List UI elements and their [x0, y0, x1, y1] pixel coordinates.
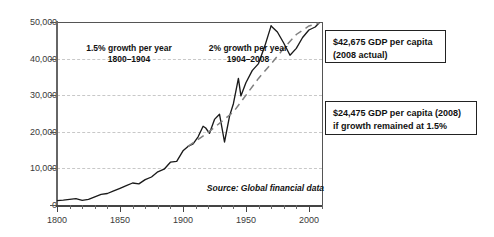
- callout-counterfactual-2008: $24,475 GDP per capita (2008) if growth …: [325, 101, 477, 135]
- x-tick-label-1850: 1850: [98, 215, 142, 225]
- gdp-per-capita-chart: 50,000 40,000 30,000 20,000 10,000 0 1.5…: [0, 0, 494, 237]
- x-tick-minor: [158, 205, 159, 209]
- x-tick-label-2000: 2000: [287, 215, 331, 225]
- source-note: Source: Global financial data: [196, 183, 324, 193]
- x-tick-minor: [233, 205, 234, 209]
- x-tick-label-1950: 1950: [224, 215, 268, 225]
- annotation-growth-1800-1904: 1.5% growth per year 1800–1904: [66, 43, 192, 65]
- x-tick-minor: [70, 205, 71, 209]
- x-tick-minor: [271, 205, 272, 209]
- x-tick-minor: [82, 205, 83, 209]
- callout-actual-2008: $42,675 GDP per capita (2008 actual): [325, 30, 446, 63]
- annotation-growth-1904-2008-line1: 2% growth per year: [190, 43, 306, 54]
- annotation-growth-1800-1904-line1: 1.5% growth per year: [66, 43, 192, 54]
- x-tick-minor: [322, 205, 323, 209]
- x-tick-mark-1800: [57, 205, 58, 212]
- x-tick-label-1900: 1900: [161, 215, 205, 225]
- x-tick-minor: [284, 205, 285, 209]
- series-counterfactual-dashed: [188, 23, 319, 146]
- callout-actual-2008-line2: (2008 actual): [333, 49, 438, 62]
- annotation-growth-1904-2008: 2% growth per year 1904–2008: [190, 43, 306, 65]
- x-tick-mark-1900: [183, 205, 184, 212]
- x-tick-minor: [107, 205, 108, 209]
- x-tick-minor: [221, 205, 222, 209]
- callout-counterfactual-2008-line1: $24,475 GDP per capita (2008): [333, 107, 469, 120]
- x-tick-minor: [259, 205, 260, 209]
- x-tick-minor: [296, 205, 297, 209]
- x-tick-mark-2000: [309, 205, 310, 212]
- x-tick-minor: [145, 205, 146, 209]
- x-tick-minor: [133, 205, 134, 209]
- x-axis: 1800 1850 1900 1950 2000: [0, 205, 494, 237]
- x-tick-label-1800: 1800: [35, 215, 79, 225]
- annotation-growth-1800-1904-line2: 1800–1904: [66, 54, 192, 65]
- y-axis: 50,000 40,000 30,000 20,000 10,000 0: [0, 0, 57, 237]
- x-tick-minor: [95, 205, 96, 209]
- annotation-growth-1904-2008-line2: 1904–2008: [190, 54, 306, 65]
- callout-counterfactual-2008-line2: if growth remained at 1.5%: [333, 120, 469, 133]
- x-tick-minor: [170, 205, 171, 209]
- x-tick-minor: [208, 205, 209, 209]
- callout-actual-2008-line1: $42,675 GDP per capita: [333, 36, 438, 49]
- x-tick-mark-1950: [246, 205, 247, 212]
- plot-right-border: [322, 22, 323, 206]
- x-tick-mark-1850: [120, 205, 121, 212]
- x-tick-minor: [196, 205, 197, 209]
